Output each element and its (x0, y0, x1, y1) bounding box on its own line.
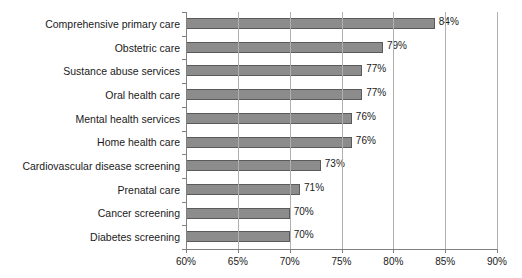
category-label: Diabetes screening (0, 230, 180, 244)
category-axis-tick (182, 83, 186, 84)
gridline-60pct (186, 12, 187, 249)
category-axis-labels: Comprehensive primary careObstetric care… (0, 12, 180, 249)
bar-value-label: 79% (387, 39, 407, 53)
category-label: Sustance abuse services (0, 64, 180, 78)
category-axis-tick (182, 59, 186, 60)
gridline-85pct (445, 12, 446, 249)
bar-value-label: 77% (366, 86, 386, 100)
bar-value-label: 70% (294, 205, 314, 219)
bar-value-label: 70% (294, 228, 314, 242)
bar-value-label: 84% (439, 15, 459, 29)
gridline-80pct (393, 12, 394, 249)
x-axis-tick-label: 65% (228, 255, 248, 269)
category-axis-tick (182, 36, 186, 37)
gridline-65pct (238, 12, 239, 249)
bar-value-label: 77% (366, 62, 386, 76)
x-axis-tick (342, 249, 343, 253)
category-label: Oral health care (0, 88, 180, 102)
category-label: Cardiovascular disease screening (0, 159, 180, 173)
category-axis-tick (182, 225, 186, 226)
category-label: Home health care (0, 135, 180, 149)
category-axis-tick (182, 202, 186, 203)
x-axis-tick-label: 70% (280, 255, 300, 269)
bar (186, 160, 321, 171)
bar (186, 184, 300, 195)
category-axis-tick (182, 107, 186, 108)
x-axis-tick (393, 249, 394, 253)
x-axis-tick-label: 75% (331, 255, 351, 269)
bar (186, 42, 383, 53)
x-axis-tick (497, 249, 498, 253)
x-axis-tick (238, 249, 239, 253)
bar (186, 65, 362, 76)
x-axis-tick (290, 249, 291, 253)
category-label: Mental health services (0, 112, 180, 126)
x-axis-tick-label: 90% (487, 255, 507, 269)
x-axis-tick-label: 85% (435, 255, 455, 269)
bar (186, 89, 362, 100)
bar-value-label: 76% (356, 110, 376, 124)
plot-area: 84%79%77%77%76%76%73%71%70%70% (186, 12, 497, 249)
gridline-70pct (290, 12, 291, 249)
bar-value-label: 71% (304, 181, 324, 195)
x-axis-tick-label: 80% (383, 255, 403, 269)
gridline-75pct (342, 12, 343, 249)
category-axis-tick (182, 131, 186, 132)
bar (186, 137, 352, 148)
category-label: Comprehensive primary care (0, 17, 180, 31)
bar-value-label: 76% (356, 134, 376, 148)
category-label: Prenatal care (0, 183, 180, 197)
category-label: Obstetric care (0, 41, 180, 55)
bar-chart: Comprehensive primary careObstetric care… (0, 0, 522, 278)
category-axis-tick (182, 154, 186, 155)
gridline-90pct (497, 12, 498, 249)
x-axis-tick (186, 249, 187, 253)
category-axis-tick (182, 12, 186, 13)
x-axis-tick (445, 249, 446, 253)
category-label: Cancer screening (0, 206, 180, 220)
category-axis-tick (182, 178, 186, 179)
x-axis-tick-label: 60% (176, 255, 196, 269)
bar (186, 113, 352, 124)
bar (186, 18, 435, 29)
